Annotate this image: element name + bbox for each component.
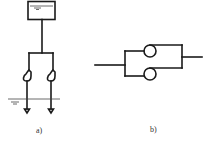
pump-icon (23, 70, 31, 113)
caption-a: a) (36, 127, 42, 135)
water-level-icon (8, 99, 60, 104)
pump-icon (47, 70, 55, 113)
diagram-canvas (0, 0, 209, 142)
caption-b: b) (150, 126, 157, 134)
supply-pipe (29, 20, 53, 71)
panel-a (8, 2, 60, 114)
pump-icon (144, 45, 182, 57)
pump-icon (144, 68, 182, 80)
panel-b (95, 45, 202, 80)
tank-icon (28, 2, 55, 20)
